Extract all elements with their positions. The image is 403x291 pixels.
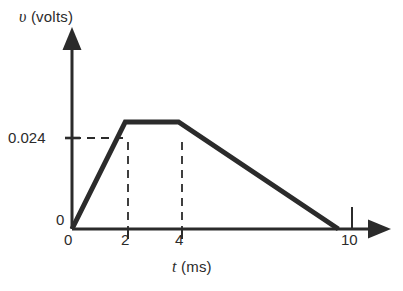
x-axis-unit: (ms) bbox=[181, 258, 212, 275]
guide-line-group bbox=[73, 138, 182, 229]
waveform-curve bbox=[72, 122, 338, 229]
y-axis-unit: (volts) bbox=[31, 8, 73, 25]
x-tick-label-ten: 10 bbox=[341, 231, 358, 248]
x-axis-symbol: t bbox=[172, 258, 177, 275]
x-axis-arrowhead bbox=[368, 220, 391, 239]
x-tick-label-zero: 0 bbox=[64, 231, 72, 248]
x-tick-label-two: 2 bbox=[121, 231, 129, 248]
y-tick-label-zero: 0 bbox=[56, 211, 64, 228]
y-axis-title: υ (volts) bbox=[19, 8, 73, 26]
voltage-waveform-figure: υ (volts) t (ms) 0.024 0 0 2 4 10 bbox=[0, 0, 403, 291]
y-axis-arrowhead bbox=[63, 27, 82, 50]
y-axis-symbol: υ bbox=[19, 8, 27, 25]
x-tick-label-four: 4 bbox=[175, 231, 183, 248]
x-axis-title: t (ms) bbox=[172, 258, 212, 276]
y-tick-label-0024: 0.024 bbox=[8, 129, 46, 146]
axis-group bbox=[63, 27, 392, 239]
